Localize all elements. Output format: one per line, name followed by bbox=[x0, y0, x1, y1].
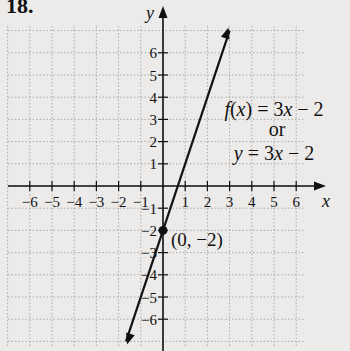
axes bbox=[8, 6, 326, 351]
x-tick-label: 1 bbox=[181, 194, 189, 210]
labels: −6−5−4−3−2−1123456−6−5−4−3−2−1123456xy(0… bbox=[22, 3, 330, 328]
y-tick-label: 5 bbox=[150, 68, 158, 84]
y-tick-label: −1 bbox=[141, 201, 157, 217]
x-tick-label: −4 bbox=[66, 194, 82, 210]
x-tick-label: −6 bbox=[22, 194, 38, 210]
x-tick-label: −2 bbox=[111, 194, 127, 210]
x-axis-arrow-icon bbox=[314, 182, 326, 191]
y-tick-label: 2 bbox=[150, 134, 158, 150]
equation-slope-intercept: y = 3x − 2 bbox=[232, 142, 314, 165]
y-axis-arrow-icon bbox=[159, 6, 168, 18]
y-tick-label: −6 bbox=[141, 312, 157, 328]
y-tick-label: 4 bbox=[150, 90, 158, 106]
x-tick-label: 4 bbox=[248, 194, 256, 210]
line-arrow-up-icon bbox=[221, 28, 230, 40]
y-tick-label: 1 bbox=[150, 156, 158, 172]
line-arrow-down-icon bbox=[126, 333, 135, 345]
x-tick-label: −3 bbox=[88, 194, 104, 210]
x-tick-label: 6 bbox=[292, 194, 300, 210]
y-tick-label: −5 bbox=[141, 290, 157, 306]
x-tick-label: 2 bbox=[204, 194, 212, 210]
y-axis-label: y bbox=[144, 3, 154, 23]
y-intercept-point bbox=[159, 226, 168, 235]
equation-or: or bbox=[269, 118, 286, 140]
x-tick-label: 3 bbox=[226, 194, 234, 210]
y-tick-label: −2 bbox=[141, 223, 157, 239]
point-label: (0, −2) bbox=[171, 229, 223, 251]
y-tick-label: 3 bbox=[150, 112, 158, 128]
y-tick-label: −3 bbox=[141, 245, 157, 261]
y-tick-label: −4 bbox=[141, 267, 157, 283]
x-axis-label: x bbox=[321, 191, 330, 211]
x-tick-label: 5 bbox=[270, 194, 278, 210]
y-tick-label: 6 bbox=[150, 45, 158, 61]
coordinate-plane: −6−5−4−3−2−1123456−6−5−4−3−2−1123456xy(0… bbox=[0, 0, 350, 351]
x-tick-label: −5 bbox=[44, 194, 60, 210]
